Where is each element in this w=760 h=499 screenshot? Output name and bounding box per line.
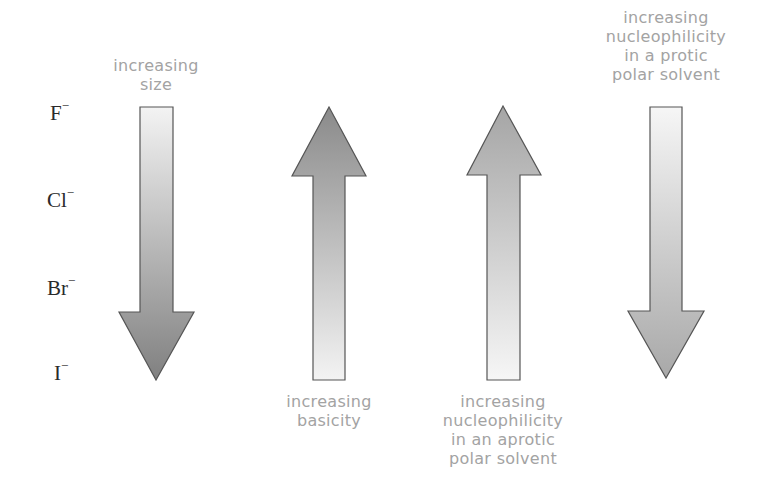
arrow-down-icon [119, 107, 194, 380]
caption-nucleophilicity-aprotic: increasing nucleophilicity in an aprotic… [428, 392, 578, 468]
arrow-nucleophilicity-aprotic [467, 106, 541, 380]
caption-increasing-basicity: increasing basicity [264, 392, 394, 430]
arrow-increasing-size [119, 107, 194, 380]
arrow-up-icon [292, 107, 366, 380]
caption-increasing-size: increasing size [96, 56, 216, 94]
caption-nucleophilicity-protic: increasing nucleophilicity in a protic p… [590, 8, 742, 84]
arrow-down-icon [628, 107, 704, 378]
arrow-nucleophilicity-protic [628, 107, 704, 378]
arrow-up-icon [467, 106, 541, 380]
arrow-increasing-basicity [292, 107, 366, 380]
